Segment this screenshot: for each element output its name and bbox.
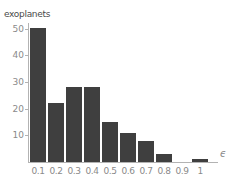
bar-0.7 <box>138 141 154 162</box>
x-tick-label: 0.7 <box>137 167 155 176</box>
x-tick-label: 0.9 <box>173 167 191 176</box>
y-tick-label: 30 <box>0 78 24 87</box>
y-tick-label: 40 <box>0 51 24 60</box>
x-tick-label: 1 <box>191 167 209 176</box>
x-tick-label: 0.6 <box>119 167 137 176</box>
x-tick-label: 0.4 <box>83 167 101 176</box>
x-tick-label: 0.5 <box>101 167 119 176</box>
y-tick-label: 10 <box>0 131 24 140</box>
y-tick-label: 20 <box>0 105 24 114</box>
y-tick-mark <box>25 82 28 83</box>
y-tick-mark <box>25 135 28 136</box>
y-tick-mark <box>25 55 28 56</box>
bar-0.6 <box>120 133 136 162</box>
y-tick-label: 50 <box>0 25 24 34</box>
x-axis-label-epsilon: ϵ <box>220 148 226 159</box>
y-tick-mark <box>25 109 28 110</box>
y-axis-line <box>28 23 29 163</box>
x-axis-line <box>28 162 218 163</box>
chart-title: exoplanets <box>4 9 50 19</box>
bar-0.5 <box>102 122 118 162</box>
bar-1 <box>192 159 208 162</box>
x-tick-label: 0.8 <box>155 167 173 176</box>
bar-0.2 <box>48 103 64 162</box>
bar-0.8 <box>156 154 172 162</box>
bar-0.3 <box>66 87 82 162</box>
y-tick-mark <box>25 29 28 30</box>
x-tick-label: 0.3 <box>65 167 83 176</box>
bar-0.1 <box>30 28 46 162</box>
x-tick-label: 0.1 <box>29 167 47 176</box>
exoplanet-eccentricity-histogram: exoplanets ϵ 10203040500.10.20.30.40.50.… <box>0 0 233 187</box>
bar-0.4 <box>84 87 100 162</box>
x-tick-label: 0.2 <box>47 167 65 176</box>
